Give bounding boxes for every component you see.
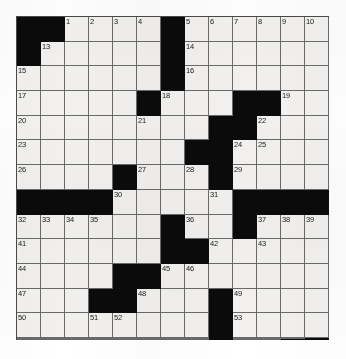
grid-cell[interactable] [89, 66, 113, 91]
grid-cell[interactable] [113, 140, 137, 165]
grid-cell[interactable] [161, 190, 185, 215]
grid-cell[interactable] [185, 116, 209, 141]
grid-cell[interactable] [185, 313, 209, 338]
grid-cell[interactable] [185, 289, 209, 314]
grid-cell[interactable] [113, 91, 137, 116]
grid-cell[interactable] [65, 313, 89, 338]
grid-cell[interactable] [209, 42, 233, 67]
grid-cell[interactable] [209, 264, 233, 289]
grid-cell[interactable] [209, 91, 233, 116]
grid-cell[interactable]: 42 [209, 239, 233, 264]
grid-cell[interactable] [161, 116, 185, 141]
grid-cell[interactable] [65, 116, 89, 141]
grid-cell[interactable]: 29 [233, 165, 257, 190]
grid-cell[interactable] [113, 215, 137, 240]
grid-cell[interactable]: 15 [17, 66, 41, 91]
grid-cell[interactable] [257, 313, 281, 338]
grid-cell[interactable]: 18 [161, 91, 185, 116]
grid-cell[interactable]: 17 [17, 91, 41, 116]
grid-cell[interactable] [233, 66, 257, 91]
grid-cell[interactable] [65, 239, 89, 264]
grid-cell[interactable] [305, 264, 329, 289]
grid-cell[interactable]: 7 [233, 17, 257, 42]
grid-cell[interactable] [41, 116, 65, 141]
grid-cell[interactable]: 20 [17, 116, 41, 141]
grid-cell[interactable]: 56 [17, 339, 41, 340]
grid-cell[interactable] [137, 42, 161, 67]
grid-cell[interactable] [281, 116, 305, 141]
grid-cell[interactable]: 51 [89, 313, 113, 338]
grid-cell[interactable] [137, 66, 161, 91]
grid-cell[interactable]: 32 [17, 215, 41, 240]
grid-cell[interactable] [89, 91, 113, 116]
grid-cell[interactable] [137, 339, 161, 340]
grid-cell[interactable]: 57 [233, 339, 257, 340]
grid-cell[interactable]: 34 [65, 215, 89, 240]
grid-cell[interactable] [161, 140, 185, 165]
grid-cell[interactable]: 45 [161, 264, 185, 289]
grid-cell[interactable] [305, 239, 329, 264]
grid-cell[interactable] [305, 313, 329, 338]
grid-cell[interactable] [281, 140, 305, 165]
grid-cell[interactable] [161, 339, 185, 340]
grid-cell[interactable] [65, 140, 89, 165]
grid-cell[interactable]: 30 [113, 190, 137, 215]
grid-cell[interactable] [305, 91, 329, 116]
grid-cell[interactable]: 4 [137, 17, 161, 42]
grid-cell[interactable] [185, 91, 209, 116]
crossword-grid[interactable]: 1234567891013141516171819202122232425262… [16, 16, 329, 340]
grid-cell[interactable] [41, 264, 65, 289]
grid-cell[interactable] [305, 289, 329, 314]
grid-cell[interactable] [113, 239, 137, 264]
grid-cell[interactable] [89, 116, 113, 141]
grid-cell[interactable] [41, 165, 65, 190]
grid-cell[interactable]: 47 [17, 289, 41, 314]
grid-cell[interactable] [185, 190, 209, 215]
grid-cell[interactable] [41, 289, 65, 314]
grid-cell[interactable] [41, 140, 65, 165]
grid-cell[interactable]: 53 [233, 313, 257, 338]
grid-cell[interactable]: 38 [281, 215, 305, 240]
grid-cell[interactable] [41, 239, 65, 264]
grid-cell[interactable] [305, 140, 329, 165]
grid-cell[interactable] [65, 42, 89, 67]
grid-cell[interactable] [281, 42, 305, 67]
grid-cell[interactable] [137, 239, 161, 264]
grid-cell[interactable]: 22 [257, 116, 281, 141]
grid-cell[interactable] [281, 165, 305, 190]
grid-cell[interactable] [41, 66, 65, 91]
grid-cell[interactable] [65, 165, 89, 190]
grid-cell[interactable] [233, 264, 257, 289]
grid-cell[interactable] [137, 190, 161, 215]
grid-cell[interactable]: 44 [17, 264, 41, 289]
grid-cell[interactable]: 9 [281, 17, 305, 42]
grid-cell[interactable]: 28 [185, 165, 209, 190]
grid-cell[interactable] [137, 140, 161, 165]
grid-cell[interactable] [257, 165, 281, 190]
grid-cell[interactable] [257, 289, 281, 314]
grid-cell[interactable] [281, 66, 305, 91]
grid-cell[interactable]: 23 [17, 140, 41, 165]
grid-cell[interactable]: 14 [185, 42, 209, 67]
grid-cell[interactable]: 31 [209, 190, 233, 215]
grid-cell[interactable] [161, 313, 185, 338]
grid-cell[interactable]: 21 [137, 116, 161, 141]
grid-cell[interactable]: 43 [257, 239, 281, 264]
grid-cell[interactable]: 24 [233, 140, 257, 165]
grid-cell[interactable] [65, 289, 89, 314]
grid-cell[interactable] [41, 91, 65, 116]
grid-cell[interactable] [305, 66, 329, 91]
grid-cell[interactable]: 6 [209, 17, 233, 42]
grid-cell[interactable]: 48 [137, 289, 161, 314]
grid-cell[interactable] [113, 42, 137, 67]
grid-cell[interactable] [65, 339, 89, 340]
grid-cell[interactable] [305, 165, 329, 190]
grid-cell[interactable]: 46 [185, 264, 209, 289]
grid-cell[interactable]: 19 [281, 91, 305, 116]
grid-cell[interactable] [41, 339, 65, 340]
grid-cell[interactable] [161, 289, 185, 314]
grid-cell[interactable]: 25 [257, 140, 281, 165]
grid-cell[interactable] [257, 66, 281, 91]
grid-cell[interactable] [233, 42, 257, 67]
grid-cell[interactable] [113, 339, 137, 340]
